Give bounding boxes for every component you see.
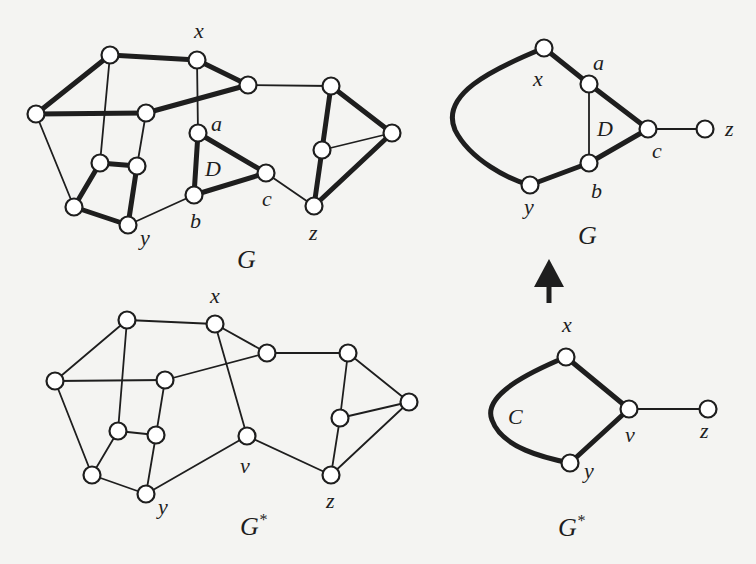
graph-vertex [640, 121, 657, 138]
graph-edge [36, 55, 110, 114]
graph-vertex [110, 423, 127, 440]
vertex-label: b [190, 208, 201, 233]
labels-layer: xacbyzDGxaczbyDGxvyzG*xvzyCG* [138, 18, 734, 542]
vertex-label: c [652, 138, 662, 163]
vertex-label: y [522, 194, 534, 219]
cycle-curve [491, 357, 570, 463]
graph-vertex [332, 410, 349, 427]
graph-edge [36, 114, 74, 207]
graph-edge [340, 353, 348, 418]
graph-vertex [148, 427, 165, 444]
face-label: C [508, 404, 523, 429]
vertex-label: y [582, 458, 594, 483]
graph-edge [247, 436, 331, 475]
graph-caption: G [578, 221, 597, 250]
graph-vertex [119, 312, 136, 329]
vertex-label: x [209, 283, 220, 308]
vertex-label: v [240, 453, 250, 478]
graph-vertex [581, 155, 598, 172]
graph-edge [322, 86, 331, 150]
graph-figure: xacbyzDGxaczbyDGxvyzG*xvzyCG* [0, 0, 756, 564]
graph-vertex [384, 125, 401, 142]
vertex-label: y [138, 225, 150, 250]
up-arrow-icon [534, 259, 564, 303]
graph-vertex [522, 177, 539, 194]
graph-vertex [28, 106, 45, 123]
graph-edge [348, 353, 409, 402]
graph-vertex [323, 78, 340, 95]
graph-vertex [340, 345, 357, 362]
graph-vertex [129, 158, 146, 175]
graph-vertex [621, 401, 638, 418]
graph-edge [340, 402, 409, 418]
graph-vertex [536, 40, 553, 57]
graph-vertex [47, 373, 64, 390]
face-label: D [596, 116, 613, 141]
vertex-label: c [262, 186, 272, 211]
graph-edge [146, 436, 247, 494]
graph-vertex [240, 77, 257, 94]
face-label: D [204, 156, 221, 181]
vertex-label: a [593, 50, 604, 75]
graph-vertex [138, 486, 155, 503]
graph-vertex [562, 455, 579, 472]
graph-edge [331, 86, 392, 133]
graph-caption: G* [558, 512, 585, 542]
graph-vertex [207, 316, 224, 333]
vertex-label: v [625, 422, 635, 447]
graph-edge [570, 409, 629, 463]
graph-vertex [120, 217, 137, 234]
graph-vertex [84, 467, 101, 484]
graph-vertex [306, 198, 323, 215]
graph-vertex [401, 394, 418, 411]
vertex-label: x [193, 18, 204, 43]
graph-caption: G [237, 245, 256, 274]
vertex-label: x [532, 66, 543, 91]
graph-vertex [92, 155, 109, 172]
vertex-label: y [156, 494, 168, 519]
graph-vertex [314, 142, 331, 159]
cycle-curve [452, 48, 544, 185]
graph-edge [55, 320, 127, 381]
graph-vertex [700, 401, 717, 418]
graph-vertex [697, 121, 714, 138]
graph-vertex [259, 345, 276, 362]
graph-vertex [190, 125, 207, 142]
vertex-label: x [561, 312, 572, 337]
graph-vertex [102, 47, 119, 64]
graph-edge [127, 320, 215, 324]
graph-edge [197, 60, 198, 133]
graph-edge [55, 381, 92, 475]
graph-vertex [66, 199, 83, 216]
graph-vertex [558, 349, 575, 366]
vertex-label: z [308, 220, 318, 245]
graph-vertex [189, 52, 206, 69]
vertex-label: z [699, 418, 709, 443]
graph-edge [100, 55, 110, 163]
vertex-label: a [211, 111, 222, 136]
graph-vertex [323, 467, 340, 484]
graph-edge [248, 85, 331, 86]
graph-edge [566, 357, 629, 409]
vertex-label: z [325, 488, 335, 513]
graph-caption: G* [240, 511, 267, 541]
curves-layer [452, 48, 570, 463]
graph-vertex [186, 187, 203, 204]
graph-edge [110, 55, 197, 60]
graph-edge [165, 353, 267, 380]
graph-edge [118, 320, 127, 431]
graph-edge [36, 113, 146, 114]
vertex-label: z [724, 116, 734, 141]
vertex-label: b [591, 178, 602, 203]
graph-edge [128, 195, 194, 225]
graph-vertex [157, 372, 174, 389]
graph-vertex [581, 76, 598, 93]
graph-vertex [138, 105, 155, 122]
graph-edge [55, 380, 165, 381]
graph-vertex [239, 428, 256, 445]
graph-vertex [258, 165, 275, 182]
graph-edge [215, 324, 247, 436]
